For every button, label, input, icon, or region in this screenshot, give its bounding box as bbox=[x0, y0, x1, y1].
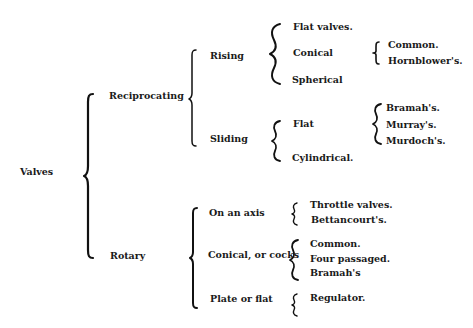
brace-cocks bbox=[287, 238, 301, 282]
node-common-cocks: Common. bbox=[310, 239, 361, 249]
brace-rotary bbox=[188, 206, 200, 310]
brace-valves bbox=[82, 92, 96, 260]
node-flat-valves: Flat valves. bbox=[293, 22, 353, 32]
node-hornblowers: Hornblower's. bbox=[388, 56, 463, 66]
node-four-passaged: Four passaged. bbox=[310, 254, 390, 264]
brace-conical-types bbox=[371, 40, 381, 66]
node-flat: Flat bbox=[293, 119, 314, 129]
node-rotary: Rotary bbox=[110, 251, 145, 261]
node-bettancourts: Bettancourt's. bbox=[311, 215, 387, 225]
brace-reciprocating bbox=[187, 48, 199, 148]
brace-on-axis bbox=[289, 201, 299, 227]
node-spherical: Spherical bbox=[292, 75, 343, 85]
node-conical-or-cocks: Conical, or cocks bbox=[208, 250, 299, 260]
node-regulator: Regulator. bbox=[310, 293, 365, 303]
node-sliding: Sliding bbox=[210, 134, 248, 144]
node-cylindrical: Cylindrical. bbox=[292, 153, 353, 163]
node-bramahs-sliding: Bramah's. bbox=[386, 103, 440, 113]
brace-rising bbox=[267, 22, 283, 86]
node-common-conical: Common. bbox=[388, 40, 439, 50]
node-murdochs: Murdoch's. bbox=[386, 136, 446, 146]
brace-flat-types bbox=[370, 102, 384, 146]
node-valves: Valves bbox=[20, 167, 53, 177]
node-murrays: Murray's. bbox=[386, 120, 437, 130]
brace-plate bbox=[289, 292, 299, 318]
node-conical: Conical bbox=[293, 48, 333, 58]
node-reciprocating: Reciprocating bbox=[109, 91, 184, 101]
node-rising: Rising bbox=[210, 51, 244, 61]
node-on-an-axis: On an axis bbox=[209, 208, 265, 218]
node-plate-or-flat: Plate or flat bbox=[210, 294, 273, 304]
brace-sliding bbox=[269, 119, 283, 163]
node-throttle-valves: Throttle valves. bbox=[310, 200, 393, 210]
node-bramahs-cocks: Bramah's bbox=[310, 268, 361, 278]
